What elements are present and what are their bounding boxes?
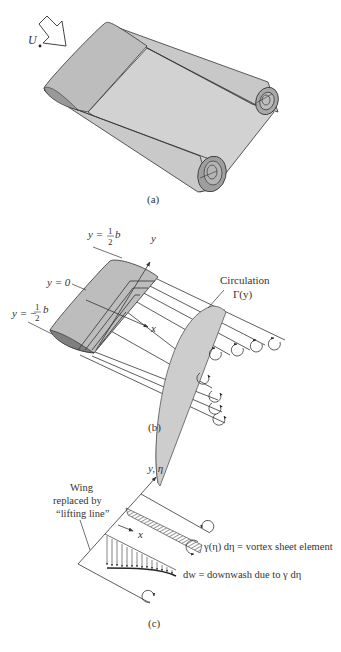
x-axis-label-b: x — [150, 322, 156, 334]
svg-text:b: b — [115, 228, 121, 240]
y-eta-label: y, η — [147, 462, 163, 474]
vortex-swirls-c — [142, 520, 214, 602]
svg-text:b: b — [43, 303, 49, 315]
downwash-curve — [107, 568, 176, 576]
svg-text:replaced by: replaced by — [53, 495, 102, 506]
freestream-subscript-dot — [39, 45, 42, 48]
label-wing-lifting-line: Wing replaced by “lifting line” — [53, 482, 110, 550]
label-y-zero: y = 0 — [46, 276, 86, 290]
caption-b: (b) — [148, 421, 161, 434]
caption-a: (a) — [147, 193, 160, 206]
x-axis-label-c: x — [137, 528, 143, 540]
svg-text:1: 1 — [35, 302, 40, 312]
figure-canvas: U (a) — [0, 0, 341, 652]
svg-text:Wing: Wing — [70, 482, 94, 493]
label-circulation: Circulation Γ(y) — [208, 274, 270, 308]
panel-a: U (a) — [28, 16, 282, 206]
svg-text:1: 1 — [108, 226, 113, 236]
svg-text:y = 0: y = 0 — [46, 276, 71, 288]
panel-c: y, η x — [53, 462, 333, 630]
x-axis-c — [118, 525, 133, 531]
label-y-half-b: y = 1 2 b — [87, 226, 122, 258]
freestream-arrow-icon — [39, 16, 66, 46]
svg-text:2: 2 — [108, 237, 113, 247]
y-axis-label-b: y — [150, 232, 156, 244]
svg-text:Γ(y): Γ(y) — [233, 288, 253, 301]
label-y-neg-half-b: y = − 1 2 b — [11, 302, 52, 334]
panel-b: x y y = 1 2 b y = 0 y = − 1 2 b Circulat… — [11, 226, 285, 486]
svg-text:y =: y = — [87, 228, 103, 240]
label-vortex-element: γ(η) dη = vortex sheet element — [203, 541, 333, 553]
svg-text:“lifting line”: “lifting line” — [56, 508, 110, 519]
y-eta-axis — [141, 477, 156, 494]
freestream-label: U — [28, 33, 38, 47]
caption-c: (c) — [148, 617, 161, 630]
svg-text:Circulation: Circulation — [220, 274, 270, 286]
label-downwash: dw = downwash due to γ dη — [183, 569, 301, 580]
svg-text:y = −: y = − — [11, 307, 37, 319]
svg-text:2: 2 — [35, 313, 40, 323]
